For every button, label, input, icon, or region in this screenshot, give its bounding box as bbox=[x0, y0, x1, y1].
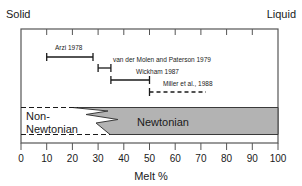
bottom-axis-labels: 0 10 20 30 40 50 60 70 80 90 100 bbox=[18, 153, 287, 164]
tick-label-60: 60 bbox=[170, 153, 182, 164]
tick-label-50: 50 bbox=[144, 153, 156, 164]
tick-label-80: 80 bbox=[221, 153, 233, 164]
newtonian-label: Newtonian bbox=[137, 116, 189, 128]
x-axis-title: Melt % bbox=[134, 170, 168, 182]
range-label-arzi-1978: Arzi 1978 bbox=[55, 44, 83, 51]
melt-rheology-figure: Solid Liquid bbox=[0, 0, 302, 186]
bottom-axis-ticks bbox=[21, 143, 278, 150]
tick-label-10: 10 bbox=[41, 153, 53, 164]
tick-label-20: 20 bbox=[67, 153, 79, 164]
melt-percent-plot: Arzi 1978 van der Molen and Paterson 197… bbox=[0, 0, 302, 186]
tick-label-40: 40 bbox=[118, 153, 130, 164]
non-newtonian-label-line1: Non- bbox=[26, 110, 50, 122]
tick-label-30: 30 bbox=[93, 153, 105, 164]
tick-label-90: 90 bbox=[247, 153, 259, 164]
tick-label-0: 0 bbox=[18, 153, 24, 164]
range-label-van-der-molen-1979: van der Molen and Paterson 1979 bbox=[113, 56, 211, 63]
non-newtonian-label-line2: Newtonian bbox=[26, 123, 78, 135]
tick-label-100: 100 bbox=[270, 153, 287, 164]
tick-label-70: 70 bbox=[195, 153, 207, 164]
range-label-wickham-1987: Wickham 1987 bbox=[136, 68, 179, 75]
range-label-miller-1988: Miller et al., 1988 bbox=[163, 80, 213, 87]
